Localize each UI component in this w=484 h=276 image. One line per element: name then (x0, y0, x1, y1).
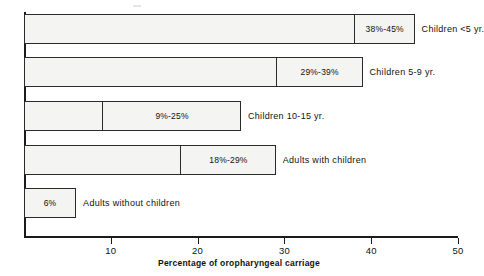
bar-range-segment: 29%-39% (276, 57, 363, 87)
x-axis-tick-label: 10 (105, 245, 116, 256)
x-axis-tick-mark (198, 238, 199, 244)
x-axis-tick-label: 50 (453, 245, 464, 256)
bar-category-label: Adults without children (83, 198, 180, 208)
x-axis-tick-mark (111, 238, 112, 244)
bar-row: 6%Adults without children (24, 188, 76, 218)
bar-range-segment: 38%-45% (354, 14, 415, 44)
bar-range-label: 38%-45% (366, 24, 404, 34)
x-axis-tick-mark (371, 238, 372, 244)
x-axis-tick-label: 30 (279, 245, 290, 256)
bar-range-label: 29%-39% (300, 67, 338, 77)
bar-row: 9%-25%Children 10-15 yr. (24, 101, 241, 131)
x-axis-tick-mark (458, 238, 459, 244)
x-axis-tick-label: 20 (192, 245, 203, 256)
x-axis-title: Percentage of oropharyngeal carriage (0, 258, 478, 268)
bar-category-label: Children 10-15 yr. (248, 111, 324, 121)
bar-row: 18%-29%Adults with children (24, 145, 276, 175)
bar-range-segment: 18%-29% (180, 145, 275, 175)
bar-range-label: 6% (44, 198, 57, 208)
bar-range-segment: 6% (24, 188, 76, 218)
bar-range-segment: 9%-25% (102, 101, 241, 131)
bar-row: 38%-45%Children <5 yr. (24, 14, 415, 44)
bar-category-label: Adults with children (283, 155, 367, 165)
x-axis-tick-mark (284, 238, 285, 244)
bar-row: 29%-39%Children 5-9 yr. (24, 57, 363, 87)
bar-category-label: Children 5-9 yr. (370, 67, 436, 77)
x-axis-line (24, 236, 458, 238)
bar-range-label: 18%-29% (209, 155, 247, 165)
bar-category-label: Children <5 yr. (422, 24, 484, 34)
scan-speck (133, 5, 141, 7)
bar-range-label: 9%-25% (155, 111, 188, 121)
x-axis-tick-label: 40 (366, 245, 377, 256)
